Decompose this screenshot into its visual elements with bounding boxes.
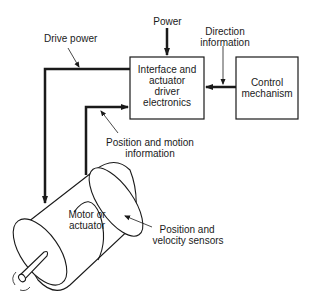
sensors-label-2: velocity sensors	[150, 235, 226, 246]
interface-line-1: Interface and	[130, 64, 204, 75]
control-line-2: mechanism	[236, 88, 298, 99]
interface-line-4: electronics	[130, 97, 204, 108]
control-line-1: Control	[236, 77, 298, 88]
interface-line-2: actuator	[130, 75, 204, 86]
direction-label-1: Direction	[200, 26, 250, 37]
motor-label-2: actuator	[62, 220, 112, 231]
interface-line-3: driver	[130, 86, 204, 97]
position-motion-label-1: Position and motion	[105, 137, 195, 148]
direction-label-2: information	[198, 37, 252, 48]
drive-power-label: Drive power	[44, 33, 97, 44]
power-label: Power	[150, 16, 185, 27]
sensors-label-1: Position and	[152, 224, 222, 235]
motor-control-diagram: Power Direction information Drive power …	[0, 0, 313, 296]
position-motion-label-2: information	[105, 148, 195, 159]
motor-label-1: Motor or	[62, 209, 112, 220]
